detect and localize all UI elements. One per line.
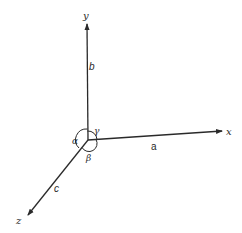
gamma-label: γ: [94, 126, 100, 136]
alpha-label: α: [72, 136, 78, 146]
x-axis: [88, 131, 222, 140]
z-axis-label: z: [15, 215, 22, 226]
y-axis: [87, 24, 88, 140]
beta-label: β: [85, 153, 91, 163]
axes-diagram: y x z b a c α γ β: [0, 0, 242, 233]
c-edge-label: c: [54, 183, 59, 194]
x-axis-label: x: [226, 126, 232, 137]
z-axis: [28, 140, 88, 215]
a-edge-label: a: [151, 141, 157, 152]
b-edge-label: b: [89, 61, 95, 72]
y-axis-label: y: [82, 10, 89, 21]
